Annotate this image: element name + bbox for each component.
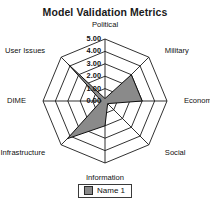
axis-label-infrastructure: Infrastructure — [0, 149, 45, 157]
chart-legend[interactable]: Name 1 — [78, 184, 132, 198]
radial-tick-4-00: 4.00 — [75, 47, 101, 54]
radial-tick-5-00: 5.00 — [75, 35, 101, 42]
radial-tick-3-00: 3.00 — [75, 60, 101, 67]
axis-label-dime: DIME — [0, 97, 26, 105]
radial-tick-0-00: 0.00 — [75, 97, 101, 104]
axis-label-economic: Economic — [184, 97, 210, 105]
axis-label-information: Information — [0, 174, 210, 182]
radial-tick-2-00: 2.00 — [75, 72, 101, 79]
legend-swatch-name-1 — [84, 186, 93, 195]
axis-label-user-issues: User Issues — [0, 47, 45, 55]
axis-label-military: Military — [165, 47, 189, 55]
radar-chart: Model Validation Metrics PoliticalMilita… — [0, 0, 210, 211]
legend-label-name-1: Name 1 — [97, 187, 125, 195]
radial-tick-1-00: 1.00 — [75, 85, 101, 92]
axis-label-political: Political — [0, 21, 210, 29]
axis-label-social: Social — [165, 149, 186, 157]
